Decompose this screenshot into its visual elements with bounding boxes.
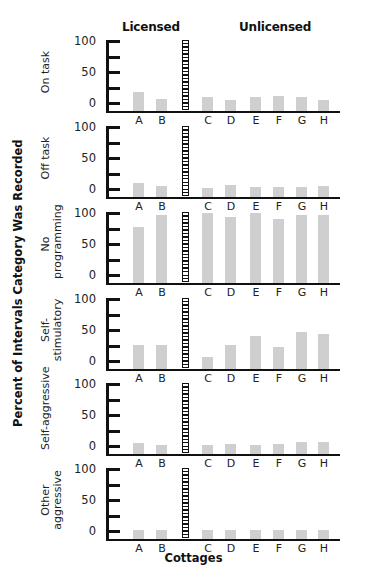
x-tick-label: G bbox=[295, 114, 309, 127]
x-tick-label: B bbox=[155, 372, 169, 385]
y-tick bbox=[106, 87, 120, 90]
panel-label-line: programming bbox=[52, 209, 64, 279]
bar-a bbox=[133, 92, 144, 111]
x-tick-label: E bbox=[249, 457, 263, 470]
bar-g bbox=[296, 442, 307, 454]
bar-c bbox=[202, 213, 213, 283]
panel-label: Self-aggressive bbox=[40, 380, 60, 450]
panel-label-line: On task bbox=[40, 37, 52, 107]
group-divider bbox=[182, 298, 189, 368]
y-tick bbox=[106, 142, 120, 145]
group-divider bbox=[182, 468, 189, 538]
y-tick bbox=[106, 40, 120, 43]
bar-a bbox=[133, 227, 144, 283]
y-tick bbox=[106, 173, 120, 176]
y-tick bbox=[106, 499, 120, 502]
y-tick-label: 100 bbox=[70, 292, 96, 306]
y-tick bbox=[106, 243, 120, 246]
bar-c bbox=[202, 357, 213, 369]
bar-d bbox=[225, 444, 236, 454]
x-axis-line bbox=[106, 539, 340, 541]
bar-f bbox=[273, 187, 284, 197]
y-tick bbox=[106, 228, 120, 231]
panel-label: Self-stimulatory bbox=[40, 295, 60, 365]
x-tick-label: B bbox=[155, 286, 169, 299]
bar-d bbox=[225, 345, 236, 369]
bar-h bbox=[318, 100, 329, 111]
x-tick-label: D bbox=[224, 372, 238, 385]
x-tick-label: C bbox=[201, 114, 215, 127]
y-tick bbox=[106, 188, 120, 191]
y-tick bbox=[106, 274, 120, 277]
y-tick-label: 50 bbox=[70, 408, 96, 422]
x-tick-label: B bbox=[155, 200, 169, 213]
y-tick-label: 50 bbox=[70, 323, 96, 337]
x-tick-label: F bbox=[272, 457, 286, 470]
y-tick-label: 50 bbox=[70, 237, 96, 251]
bar-g bbox=[296, 97, 307, 111]
y-tick-label: 0 bbox=[70, 96, 96, 110]
panel-label-line: stimulatory bbox=[52, 295, 64, 365]
y-tick bbox=[106, 329, 120, 332]
bar-e bbox=[250, 97, 261, 111]
x-tick-label: B bbox=[155, 114, 169, 127]
group-title-licensed: Licensed bbox=[122, 20, 180, 34]
y-tick bbox=[106, 414, 120, 417]
x-tick-label: D bbox=[224, 286, 238, 299]
bar-b bbox=[156, 186, 167, 197]
y-tick bbox=[106, 212, 120, 215]
bar-h bbox=[318, 215, 329, 283]
x-tick-label: E bbox=[249, 114, 263, 127]
bar-a bbox=[133, 443, 144, 454]
x-tick-label: E bbox=[249, 286, 263, 299]
x-tick-label: A bbox=[132, 457, 146, 470]
y-tick bbox=[106, 360, 120, 363]
bar-h bbox=[318, 530, 329, 539]
bar-c bbox=[202, 97, 213, 111]
x-tick-label: D bbox=[224, 114, 238, 127]
panel-label: On task bbox=[40, 37, 60, 107]
bar-e bbox=[250, 187, 261, 197]
x-tick-label: H bbox=[317, 286, 331, 299]
x-tick-label: H bbox=[317, 114, 331, 127]
x-tick-label: A bbox=[132, 286, 146, 299]
x-tick-label: C bbox=[201, 286, 215, 299]
x-axis-line bbox=[106, 197, 340, 199]
bar-h bbox=[318, 334, 329, 369]
bar-e bbox=[250, 213, 261, 283]
x-tick-label: C bbox=[201, 372, 215, 385]
x-tick-label: E bbox=[249, 200, 263, 213]
bar-h bbox=[318, 442, 329, 454]
bar-h bbox=[318, 186, 329, 197]
bar-e bbox=[250, 336, 261, 369]
bar-d bbox=[225, 530, 236, 539]
panel-label: Noprogramming bbox=[40, 209, 60, 279]
x-tick-label: F bbox=[272, 114, 286, 127]
y-tick-label: 100 bbox=[70, 120, 96, 134]
bar-b bbox=[156, 99, 167, 111]
bar-g bbox=[296, 530, 307, 539]
panel-label-line: Self-aggressive bbox=[40, 380, 52, 450]
y-tick-label: 0 bbox=[70, 439, 96, 453]
bar-b bbox=[156, 530, 167, 539]
y-tick-label: 50 bbox=[70, 151, 96, 165]
y-tick bbox=[106, 430, 120, 433]
bar-f bbox=[273, 96, 284, 111]
bar-g bbox=[296, 187, 307, 197]
x-tick-label: F bbox=[272, 372, 286, 385]
bar-d bbox=[225, 100, 236, 111]
bar-a bbox=[133, 530, 144, 539]
group-title-unlicensed: Unlicensed bbox=[239, 20, 311, 34]
y-tick bbox=[106, 71, 120, 74]
y-tick bbox=[106, 259, 120, 262]
x-tick-label: G bbox=[295, 286, 309, 299]
bar-b bbox=[156, 445, 167, 454]
y-tick bbox=[106, 298, 120, 301]
y-tick bbox=[106, 126, 120, 129]
bar-g bbox=[296, 332, 307, 369]
y-tick bbox=[106, 383, 120, 386]
panel-label-line: Off task bbox=[40, 123, 52, 193]
x-tick-label: E bbox=[249, 372, 263, 385]
y-tick-label: 50 bbox=[70, 493, 96, 507]
y-tick bbox=[106, 345, 120, 348]
